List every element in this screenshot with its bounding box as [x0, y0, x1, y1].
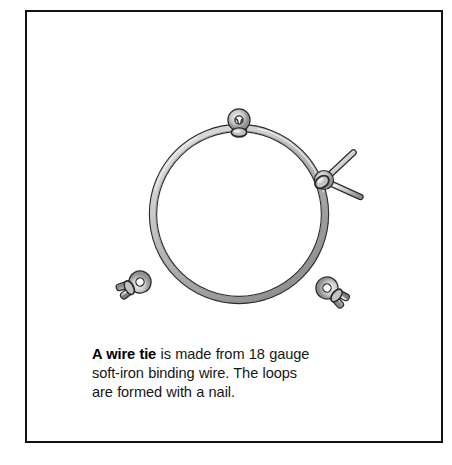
caption-line-3: are formed with a nail. — [92, 383, 382, 402]
figure-root: A wire tie is made from 18 gauge soft-ir… — [0, 0, 452, 465]
caption-lead: A wire tie — [92, 346, 156, 362]
caption-line-1-rest: is made from 18 gauge — [156, 346, 309, 362]
figure-caption: A wire tie is made from 18 gauge soft-ir… — [92, 345, 382, 403]
caption-line-1: A wire tie is made from 18 gauge — [92, 345, 382, 364]
caption-line-2: soft-iron binding wire. The loops — [92, 364, 382, 383]
